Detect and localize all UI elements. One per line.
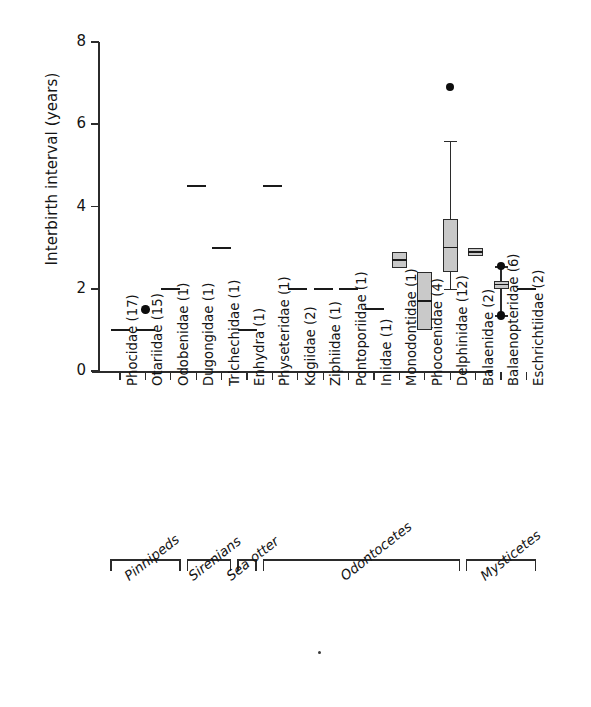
boxplot-upper-whisker	[450, 141, 451, 219]
x-category-label: Phocoenidae (4)	[430, 278, 445, 386]
x-tick	[170, 372, 171, 380]
x-tick	[475, 372, 476, 380]
boxplot-outlier-point	[497, 262, 506, 271]
group-bracket-tick	[263, 559, 265, 571]
group-label: Pinnipeds	[121, 531, 182, 584]
boxplot-group	[0, 0, 591, 707]
plot-area	[0, 0, 591, 707]
y-tick-8	[91, 41, 99, 43]
x-category-label: Otariidae (15)	[150, 293, 165, 386]
boxplot-group	[0, 0, 591, 707]
x-tick	[450, 372, 451, 380]
x-category-label: Balaenidae (2)	[481, 289, 496, 386]
group-bracket-tick	[459, 559, 461, 571]
x-tick	[526, 372, 527, 380]
y-tick-2	[91, 288, 99, 290]
x-category-label: Pontoporiidae (1)	[354, 271, 369, 386]
boxplot-group	[0, 0, 591, 707]
group-bracket-tick	[110, 559, 112, 571]
y-tick-label-2: 2	[62, 279, 86, 297]
x-category-label: Iniidae (1)	[379, 318, 394, 386]
boxplot-box	[443, 219, 458, 272]
y-tick-label-4: 4	[62, 197, 86, 215]
boxplot-single-value-line	[212, 247, 231, 249]
boxplot-group	[0, 0, 591, 707]
x-tick	[196, 372, 197, 380]
boxplot-outlier-point	[141, 305, 150, 314]
boxplot-group	[0, 0, 591, 707]
boxplot-upper-whisker	[500, 266, 501, 280]
x-tick	[348, 372, 349, 380]
group-label: Odontocetes	[337, 518, 415, 584]
x-category-label: Kogiidae (2)	[303, 306, 318, 386]
x-tick	[297, 372, 298, 380]
boxplot-group	[0, 0, 591, 707]
boxplot-group	[0, 0, 591, 707]
x-category-label: Enhydra (1)	[252, 308, 267, 386]
x-category-label: Delphinidae (12)	[455, 275, 470, 386]
boxplot-group	[0, 0, 591, 707]
boxplot-box	[468, 248, 483, 256]
x-category-label: Trichechidae (1)	[227, 280, 242, 386]
y-tick-label-6: 6	[62, 114, 86, 132]
boxplot-figure: Interbirth interval (years) 02468Phocida…	[0, 0, 591, 707]
group-label: Mysticetes	[477, 527, 544, 584]
group-bracket-tick	[535, 559, 537, 571]
boxplot-lower-whisker	[500, 289, 501, 316]
x-category-label: Monodontidae (1)	[404, 268, 419, 386]
boxplot-single-value-line	[263, 185, 282, 187]
x-tick	[221, 372, 222, 380]
group-bracket-tick	[179, 559, 181, 571]
scan-speck	[318, 651, 321, 654]
x-tick	[119, 372, 120, 380]
x-tick	[272, 372, 273, 380]
x-category-label: Dugongidae (1)	[201, 283, 216, 386]
x-category-label: Ziphiidae (1)	[328, 301, 343, 386]
x-category-label: Phocidae (17)	[125, 294, 140, 386]
boxplot-upper-cap	[444, 141, 457, 142]
y-tick-4	[91, 206, 99, 208]
boxplot-single-value-line	[187, 185, 206, 187]
y-tick-6	[91, 123, 99, 125]
boxplot-group	[0, 0, 591, 707]
x-category-label: Eschrichtiidae (2)	[531, 270, 546, 386]
boxplot-group	[0, 0, 591, 707]
boxplot-box	[392, 252, 407, 268]
boxplot-group	[0, 0, 591, 707]
x-tick	[246, 372, 247, 380]
x-category-label: Odobenidae (1)	[176, 283, 191, 386]
y-tick-label-8: 8	[62, 32, 86, 50]
x-tick	[399, 372, 400, 380]
x-tick	[373, 372, 374, 380]
x-category-label: Physeteridae (1)	[277, 276, 292, 386]
boxplot-group	[0, 0, 591, 707]
x-tick	[424, 372, 425, 380]
boxplot-group	[0, 0, 591, 707]
boxplot-outlier-point	[497, 311, 506, 320]
boxplot-single-value-line	[314, 288, 333, 290]
boxplot-group	[0, 0, 591, 707]
x-tick	[145, 372, 146, 380]
boxplot-median-line	[443, 247, 458, 249]
x-category-label: Balaenopteridae (6)	[506, 253, 521, 386]
boxplot-lower-whisker	[450, 272, 451, 288]
boxplot-median-line	[392, 259, 407, 261]
boxplot-median-line	[468, 251, 483, 253]
y-tick-0	[91, 370, 99, 372]
boxplot-group	[0, 0, 591, 707]
y-axis-label: Interbirth interval (years)	[43, 39, 61, 299]
boxplot-group	[0, 0, 591, 707]
y-tick-label-0: 0	[62, 361, 86, 379]
x-tick	[323, 372, 324, 380]
boxplot-group	[0, 0, 591, 707]
boxplot-outlier-point	[446, 83, 455, 92]
x-tick	[500, 372, 501, 380]
group-bracket-tick	[466, 559, 468, 571]
